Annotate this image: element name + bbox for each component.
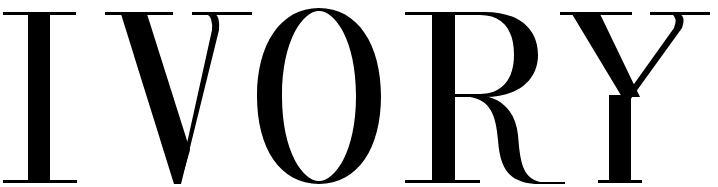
letter-r (405, 12, 565, 184)
letter-i (3, 12, 77, 183)
letter-v (105, 12, 252, 184)
ivory-wordmark-logo: IVORY (0, 0, 718, 187)
wordmark-graphic (0, 0, 718, 187)
letter-y (560, 12, 710, 183)
letter-o (257, 8, 381, 184)
